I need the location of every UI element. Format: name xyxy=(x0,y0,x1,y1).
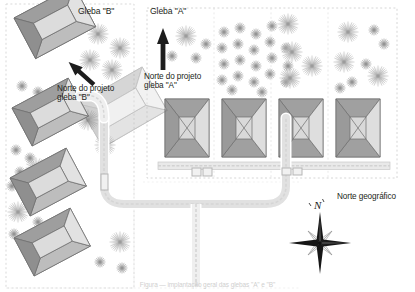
label-gleba-a: Gleba "A" xyxy=(150,7,186,17)
gate-markers xyxy=(101,168,302,190)
pavilion-a2[interactable] xyxy=(222,99,266,157)
label-north-project-gleba-a: Norte do projeto gleba "A" xyxy=(144,72,201,90)
buildings-gleba-a xyxy=(165,99,380,157)
label-north-project-gleba-b: Norte do projeto gleba "B" xyxy=(57,84,114,102)
pavilion-a1[interactable] xyxy=(165,99,209,157)
pavilion-a4[interactable] xyxy=(336,99,380,157)
north-arrow-gleba-a xyxy=(157,28,169,70)
label-gleba-b: Gleba "B" xyxy=(78,7,114,17)
compass-rose: N xyxy=(289,199,351,274)
compass-north-letter: N xyxy=(313,199,322,211)
map-canvas: N xyxy=(0,0,415,292)
label-norte-geografico: Norte geográfico xyxy=(337,192,396,201)
figure-caption: Figura — implantação geral das glebas "A… xyxy=(0,281,415,288)
site-plan-map: N Gleba "B" Gleba "A" Norte do projeto g… xyxy=(0,0,415,292)
